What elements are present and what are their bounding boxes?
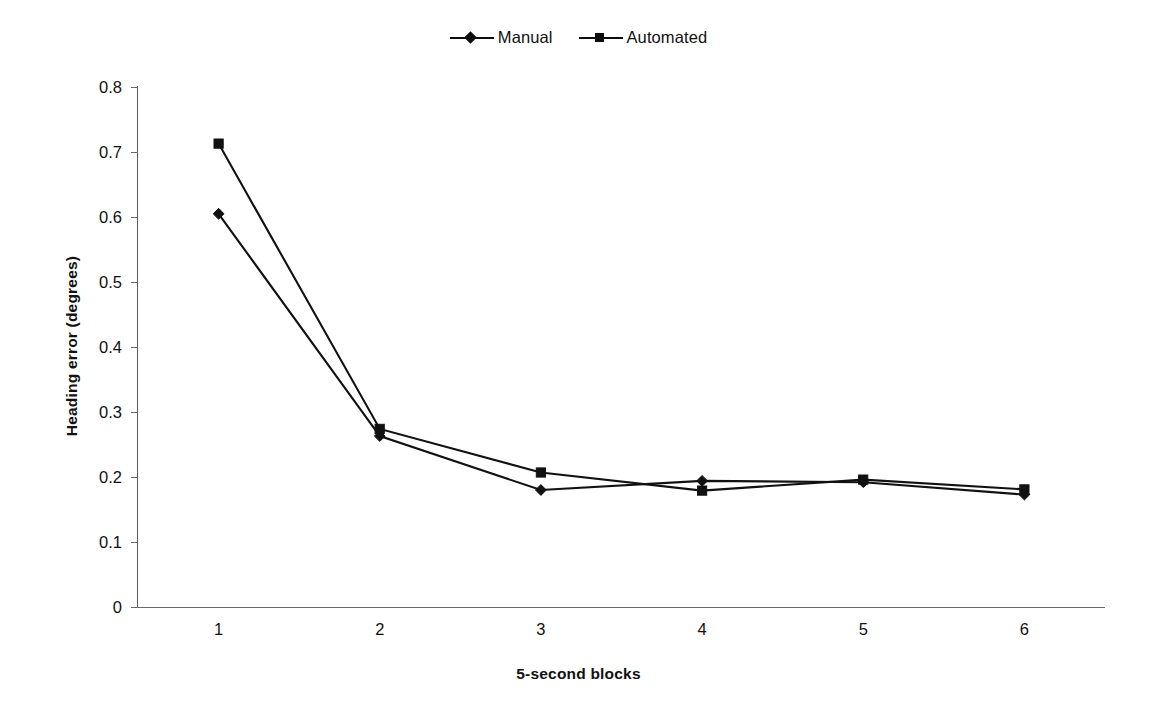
square-marker <box>536 468 545 477</box>
square-marker <box>375 424 384 433</box>
x-axis-title: 5-second blocks <box>0 665 1157 683</box>
square-marker <box>859 475 868 484</box>
series-automated <box>214 139 1029 495</box>
square-marker <box>698 486 707 495</box>
series-manual <box>213 208 1030 500</box>
square-marker <box>1020 485 1029 494</box>
square-marker <box>214 139 223 148</box>
series-line <box>219 214 1025 495</box>
line-chart: Manual Automated 0.80.70.60.50.40.30.20.… <box>0 0 1157 711</box>
diamond-marker <box>536 485 547 496</box>
series-line <box>219 144 1025 491</box>
y-axis-title: Heading error (degrees) <box>63 176 81 516</box>
data-series-layer <box>0 0 1157 711</box>
diamond-marker <box>697 476 708 487</box>
